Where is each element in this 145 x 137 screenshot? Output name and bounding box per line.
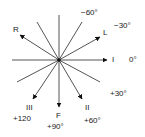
ref-plus150-axis [17, 60, 59, 82]
lead-aVR-axis [20, 35, 59, 60]
lead-III-axis [33, 60, 59, 99]
angle-plus120: +120 [13, 115, 31, 123]
label-F: F [56, 112, 61, 120]
angle-minus60: −60° [81, 9, 98, 17]
hexaxial-diagram: R L I F II III −60° −30° 0° +30° +60° +9… [0, 0, 145, 137]
label-I: I [112, 56, 114, 64]
center-point [57, 58, 61, 62]
label-L: L [103, 29, 107, 37]
angle-plus60: +60° [84, 117, 101, 125]
angle-zero: 0° [129, 56, 137, 64]
label-R: R [13, 26, 19, 34]
ref-minus60-axis [59, 22, 82, 60]
angle-plus30: +30° [110, 90, 127, 98]
lead-aVL-axis [59, 37, 100, 60]
angle-minus30: −30° [114, 22, 131, 30]
ref-minus120-axis [37, 22, 59, 60]
label-III: III [26, 104, 33, 112]
angle-plus90: +90° [47, 123, 64, 131]
label-II: II [85, 104, 89, 112]
